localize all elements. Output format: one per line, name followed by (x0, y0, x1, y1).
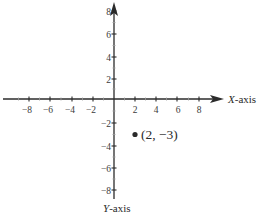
y-tick-label: −4 (101, 142, 111, 152)
x-axis-label-suffix: -axis (235, 93, 256, 105)
x-tick-label: −8 (22, 105, 32, 115)
coordinate-plane: −8 −6 −4 −2 2 4 6 8 8 6 4 2 −2 −4 −6 −8 … (0, 0, 258, 213)
x-tick-label: −4 (65, 105, 75, 115)
x-tick-labels: −8 −6 −4 −2 2 4 6 8 (22, 105, 202, 115)
y-tick-label: 6 (106, 30, 111, 40)
y-tick-label: 4 (106, 53, 111, 63)
point-label: (2, −3) (141, 127, 178, 142)
y-axis-label-suffix: -axis (109, 202, 130, 213)
y-tick-label: −8 (101, 186, 111, 196)
y-tick-label: 8 (106, 7, 111, 17)
x-axis-label: X-axis (227, 93, 256, 105)
y-tick-label: −2 (101, 119, 111, 129)
y-tick-label: −6 (101, 164, 111, 174)
x-tick-label: 6 (176, 105, 181, 115)
plotted-point (132, 132, 137, 137)
x-tick-label: −6 (43, 105, 53, 115)
x-tick-label: −2 (86, 105, 96, 115)
x-tick-label: 8 (197, 105, 202, 115)
x-tick-label: 2 (133, 105, 138, 115)
y-tick-labels: 8 6 4 2 −2 −4 −6 −8 (101, 7, 111, 196)
y-tick-label: 2 (106, 75, 111, 85)
y-axis-label: Y-axis (103, 202, 131, 213)
x-tick-label: 4 (154, 105, 159, 115)
